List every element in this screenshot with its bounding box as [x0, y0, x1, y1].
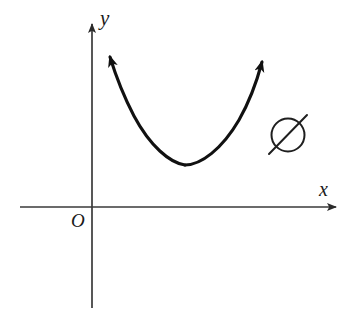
- parabola-right-branch: [185, 62, 262, 165]
- y-axis-label: y: [100, 8, 109, 29]
- x-axis-label: x: [319, 179, 328, 199]
- parabola-left-branch: [110, 57, 185, 165]
- figure-canvas: y x O: [0, 0, 362, 323]
- parabola-coordinate-diagram: [0, 0, 362, 323]
- origin-label: O: [71, 211, 85, 230]
- empty-set-slash: [269, 115, 307, 154]
- empty-set-symbol: [269, 115, 307, 154]
